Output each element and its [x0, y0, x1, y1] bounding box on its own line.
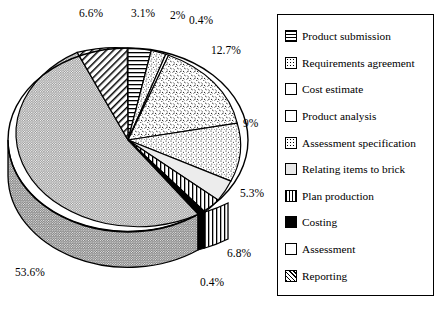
legend-item-label: Relating items to brick [302, 163, 405, 175]
legend-item[interactable]: Costing [285, 209, 429, 236]
legend-item[interactable]: Assessment specification [285, 129, 429, 156]
legend-item-label: Assessment [302, 243, 355, 255]
legend-item-label: Assessment specification [302, 137, 416, 149]
legend-swatch-icon [285, 110, 297, 122]
legend-swatch-icon [285, 163, 297, 175]
pie-data-label: 53.6% [15, 267, 45, 279]
pie-data-label: 6.8% [227, 248, 251, 260]
legend-swatch-icon [285, 57, 297, 69]
legend-swatch-icon [285, 137, 297, 149]
pie-data-label: 6.6% [79, 8, 103, 20]
chart-legend: Product submissionRequirements agreement… [277, 14, 434, 296]
pie-data-label: 0.4% [200, 277, 224, 289]
legend-item-label: Product submission [302, 30, 391, 42]
legend-item-label: Product analysis [302, 110, 376, 122]
legend-swatch-icon [285, 190, 297, 202]
legend-item-list: Product submissionRequirements agreement… [285, 23, 429, 289]
legend-item-label: Reporting [302, 270, 347, 282]
legend-item-label: Costing [302, 216, 337, 228]
legend-swatch-icon [285, 30, 297, 42]
legend-item[interactable]: Product analysis [285, 103, 429, 130]
legend-swatch-icon [285, 83, 297, 95]
legend-item[interactable]: Cost estimate [285, 76, 429, 103]
pie-chart: 6.6%3.1%2%0.4%12.7%9%5.3%6.8%0.4%53.6% P… [0, 0, 439, 313]
pie-data-label: 0.4% [189, 15, 213, 27]
pie-data-label: 12.7% [211, 45, 241, 57]
legend-item[interactable]: Reporting [285, 262, 429, 289]
legend-item-label: Cost estimate [302, 83, 363, 95]
pie-data-label: 2% [170, 10, 185, 22]
pie-data-label: 5.3% [240, 188, 264, 200]
legend-item[interactable]: Plan production [285, 183, 429, 210]
legend-item-label: Requirements agreement [302, 57, 415, 69]
legend-item[interactable]: Assessment [285, 236, 429, 263]
legend-swatch-icon [285, 270, 297, 282]
legend-swatch-icon [285, 243, 297, 255]
pie-slices [16, 48, 241, 227]
legend-item[interactable]: Requirements agreement [285, 50, 429, 77]
pie-data-label: 3.1% [131, 8, 155, 20]
legend-item-label: Plan production [302, 190, 374, 202]
legend-item[interactable]: Product submission [285, 23, 429, 50]
pie-data-label: 9% [243, 118, 258, 130]
legend-item[interactable]: Relating items to brick [285, 156, 429, 183]
legend-swatch-icon [285, 216, 297, 228]
